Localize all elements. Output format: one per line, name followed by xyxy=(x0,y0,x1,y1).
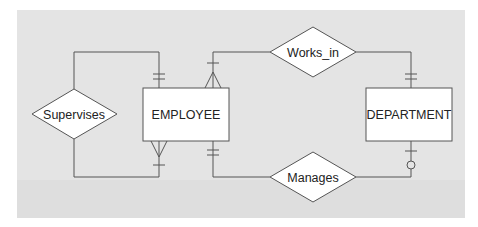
entity-employee-label: EMPLOYEE xyxy=(152,108,221,122)
entity-department[interactable]: DEPARTMENT xyxy=(366,88,452,141)
relationship-manages-label: Manages xyxy=(287,171,338,185)
entity-department-label: DEPARTMENT xyxy=(367,108,452,122)
panel-lower-band xyxy=(17,180,465,218)
relationship-supervises-label: Supervises xyxy=(43,108,105,122)
er-diagram: EMPLOYEE DEPARTMENT Supervises Works_in … xyxy=(0,0,478,227)
entity-employee[interactable]: EMPLOYEE xyxy=(143,88,229,141)
relationship-works-in-label: Works_in xyxy=(287,46,339,60)
